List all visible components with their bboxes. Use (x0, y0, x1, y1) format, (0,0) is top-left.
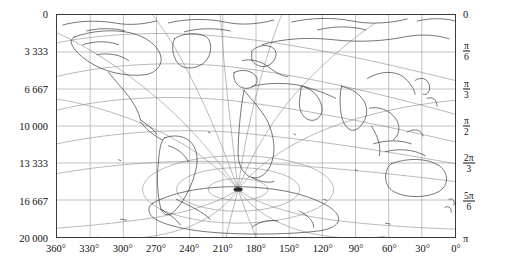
axis-bottom-tick-9: 90° (349, 243, 364, 254)
map-plot-frame[interactable] (56, 14, 456, 238)
rectangular-graticule (57, 15, 455, 237)
axis-bottom-tick-0: 360° (46, 243, 66, 254)
axis-bottom-tick-10: 60° (382, 243, 397, 254)
axis-right-value-0: 0 (463, 9, 468, 20)
axis-right-fraction-2: π 3 (463, 78, 470, 99)
axis-bottom-tick-4: 240° (179, 243, 199, 254)
axis-left-tick-4: 13 333 (0, 158, 48, 169)
figure-container: 0 3 333 6 667 10 000 13 333 16 667 20 00… (0, 0, 505, 272)
axis-bottom-tick-12: 0° (451, 243, 460, 254)
axis-bottom-tick-1: 330° (79, 243, 99, 254)
axis-right-value-6: π (463, 233, 468, 244)
axis-bottom-tick-8: 120° (313, 243, 333, 254)
axis-left-tick-0: 0 (0, 9, 48, 20)
axis-left-tick-3: 10 000 (0, 121, 48, 132)
axis-bottom-tick-7: 150° (279, 243, 299, 254)
axis-left-tick-6: 20 000 (0, 233, 48, 244)
axis-right-tick-4: 2π 3 (463, 153, 475, 174)
axis-right-tick-2: π 3 (463, 78, 470, 99)
axis-bottom-tick-6: 180° (246, 243, 266, 254)
axis-right-tick-5: 5π 6 (463, 190, 475, 211)
axis-bottom-tick-3: 270° (146, 243, 166, 254)
axis-bottom-tick-5: 210° (213, 243, 233, 254)
axis-right-tick-0: 0 (463, 8, 468, 20)
axis-left-tick-2: 6 667 (0, 83, 48, 94)
axis-right-tick-1: π 6 (463, 41, 470, 62)
axis-right-tick-3: π 2 (463, 116, 470, 137)
axis-right-fraction-1: π 6 (463, 41, 470, 62)
axis-bottom-tick-2: 300° (113, 243, 133, 254)
axis-right-fraction-4: 2π 3 (463, 153, 475, 174)
axis-left-tick-1: 3 333 (0, 46, 48, 57)
axis-right-fraction-5: 5π 6 (463, 190, 475, 211)
axis-right-fraction-3: π 2 (463, 116, 470, 137)
oblique-pole-marker (234, 187, 243, 191)
axis-right-tick-6: π (463, 232, 468, 244)
axis-left-tick-5: 16 667 (0, 195, 48, 206)
axis-bottom-tick-11: 30° (415, 243, 430, 254)
map-canvas (57, 15, 455, 237)
